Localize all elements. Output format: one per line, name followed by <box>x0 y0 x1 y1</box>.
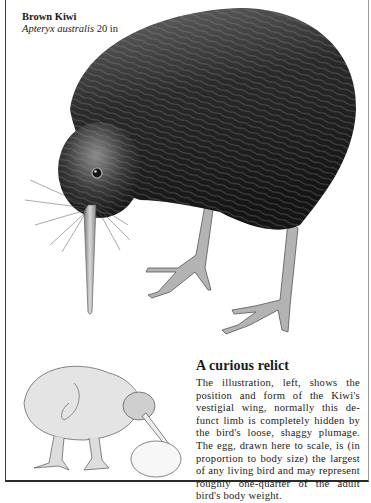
article-body: The illustration, left, shows the positi… <box>196 377 360 503</box>
species-caption: Brown Kiwi Apteryx australis 20 in <box>22 11 118 35</box>
article-sidebar: A curious relict The illustration, left,… <box>196 358 360 503</box>
eye <box>92 168 102 178</box>
beak <box>84 205 96 314</box>
common-name: Brown Kiwi <box>22 11 118 23</box>
article-heading: A curious relict <box>196 358 360 374</box>
scientific-name: Apteryx australis <box>22 23 94 34</box>
kiwi-wing-egg-illustration <box>14 358 186 480</box>
brown-kiwi-illustration <box>0 0 371 345</box>
size-label: 20 in <box>97 23 118 34</box>
inset-head <box>123 392 155 420</box>
egg <box>131 441 181 477</box>
